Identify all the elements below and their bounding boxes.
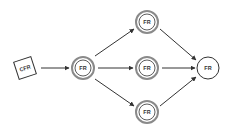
node-cfr: CFR: [14, 57, 37, 80]
node-fr-mid: FR: [136, 57, 158, 79]
node-fr-top: FR: [136, 11, 158, 33]
fr-left-label: FR: [79, 65, 86, 71]
node-fr-bottom: FR: [136, 101, 158, 123]
node-fr-right: FR: [197, 57, 219, 79]
flow-diagram: CFR FR FR FR FR FR: [0, 0, 231, 131]
fr-mid-label: FR: [143, 65, 150, 71]
edges: [41, 29, 196, 106]
fr-right-label: FR: [204, 65, 211, 71]
edge-fr-bottom-to-fr-right: [160, 77, 196, 106]
fr-top-label: FR: [143, 19, 150, 25]
edge-fr-left-to-fr-bottom: [95, 79, 134, 106]
edge-fr-left-to-fr-top: [95, 29, 134, 56]
node-fr-left: FR: [72, 57, 94, 79]
edge-fr-top-to-fr-right: [160, 29, 196, 60]
fr-bottom-label: FR: [143, 109, 150, 115]
